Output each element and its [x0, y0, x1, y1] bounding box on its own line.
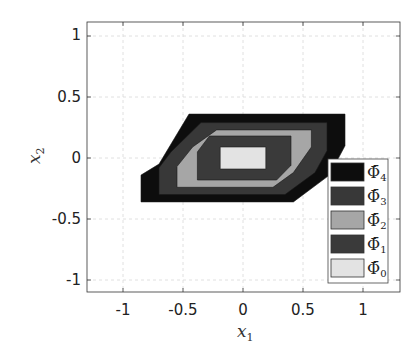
x-tick-label: 0.5 [291, 301, 315, 319]
legend-swatch [331, 259, 364, 277]
x-axis-label: x1 [237, 321, 254, 344]
y-tick-label: 0 [71, 149, 81, 167]
x-tick-label: -1 [116, 301, 131, 319]
y-tick-label: 0.5 [57, 88, 81, 106]
y-tick-label: -0.5 [52, 210, 81, 228]
y-axis-label: x2 [24, 147, 47, 164]
region-phi-0 [220, 147, 266, 169]
set-regions [141, 114, 345, 202]
legend-swatch [331, 211, 364, 229]
y-tick-label: -1 [66, 271, 81, 289]
x-tick-label: 0 [238, 301, 248, 319]
x-tick-label: 1 [358, 301, 368, 319]
legend: Φ̄4Φ̄3Φ̄2Φ̄1Φ̄0 [328, 159, 388, 283]
legend-swatch [331, 187, 364, 205]
legend-swatch [331, 235, 364, 253]
legend-swatch [331, 163, 364, 181]
chart-canvas: -1 -0.5 0 0.5 1 1 0.5 0 -0.5 -1 x1 x2 Φ̄… [0, 0, 420, 354]
y-tick-label: 1 [71, 26, 81, 44]
x-tick-label: -0.5 [168, 301, 197, 319]
